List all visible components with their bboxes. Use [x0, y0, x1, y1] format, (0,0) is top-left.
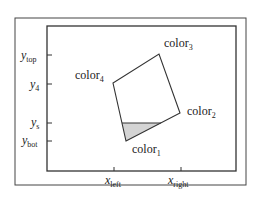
label-color-4: color4: [75, 68, 104, 84]
label-y-bot: ybot: [21, 133, 38, 149]
outer-frame: [15, 18, 246, 185]
label-x-right: xright: [167, 173, 189, 189]
label-x-left: xleft: [104, 173, 122, 189]
label-y-4: y4: [29, 77, 39, 93]
label-y-s: ys: [30, 115, 39, 131]
label-color-1: color1: [132, 142, 161, 158]
diagram-canvas: ytop y4 ys ybot xleft xright color1 colo…: [0, 0, 267, 211]
label-color-3: color3: [164, 36, 193, 52]
label-y-top: ytop: [20, 48, 37, 64]
label-color-2: color2: [187, 104, 216, 120]
